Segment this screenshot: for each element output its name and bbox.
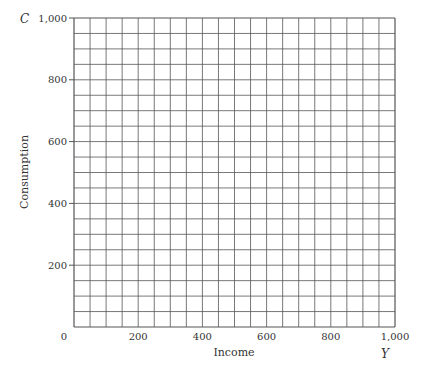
- grid: [74, 18, 395, 327]
- x-tick-label: 400: [193, 331, 212, 342]
- y-tick-label: 800: [48, 74, 67, 85]
- x-axis-title: Income: [213, 346, 254, 359]
- x-tick-label: 600: [257, 331, 276, 342]
- consumption-income-grid-chart: 2004006008001,000 02004006008001,000 C Y…: [0, 0, 423, 372]
- y-axis-title: Consumption: [18, 135, 31, 209]
- x-axis-variable: Y: [381, 347, 390, 361]
- y-tick-label: 600: [48, 136, 67, 147]
- x-tick-label: 200: [129, 331, 148, 342]
- x-axis-ticks: 02004006008001,000: [61, 331, 410, 342]
- y-tick-label: 1,000: [38, 13, 67, 24]
- y-axis-variable: C: [20, 12, 29, 26]
- y-tick-label: 400: [48, 198, 67, 209]
- x-tick-label: 800: [321, 331, 340, 342]
- y-axis-ticks: 2004006008001,000: [38, 13, 74, 271]
- y-tick-label: 200: [48, 260, 67, 271]
- x-tick-label: 1,000: [381, 331, 410, 342]
- x-tick-label: 0: [61, 331, 67, 342]
